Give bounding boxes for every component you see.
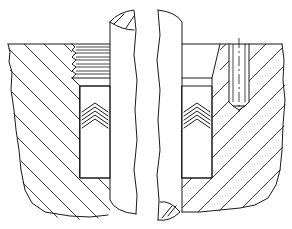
housing-left [0,20,260,220]
shaft-left-half [110,10,137,214]
housing-right [30,20,292,220]
chevron-packing-left [80,86,110,178]
stuffing-box-diagram [0,0,292,229]
chevron-packing-right [182,86,212,178]
shaft-right-half [157,10,182,220]
threaded-gland-bore [72,44,110,86]
